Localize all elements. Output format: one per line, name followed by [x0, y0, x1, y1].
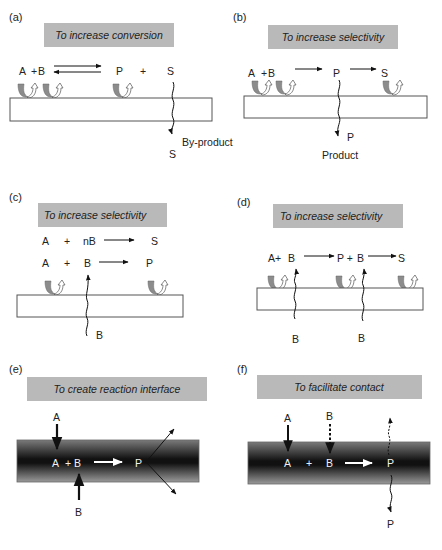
species-B: B	[74, 457, 81, 469]
panel-c-title: To increase selectivity	[44, 209, 147, 221]
species-A: A	[284, 457, 291, 469]
membrane	[17, 295, 183, 317]
feed-A-label: A	[284, 412, 291, 424]
species-S: S	[151, 235, 158, 247]
panel-f-label: (f)	[237, 363, 247, 375]
species-S: S	[167, 65, 174, 77]
panel-f: (f) To facilitate contact A B A + B P P	[237, 363, 430, 530]
adsorption-arrow-icon	[43, 83, 63, 98]
species-A: A	[42, 235, 49, 247]
species-A: A	[42, 257, 49, 269]
species-B: B	[357, 252, 364, 264]
plus: +	[261, 67, 267, 79]
plus: +	[140, 65, 146, 77]
species-S: S	[381, 67, 388, 79]
panel-a-title: To increase conversion	[55, 29, 163, 41]
plus: +	[306, 457, 312, 469]
species-P: P	[333, 67, 340, 79]
feed-B-label: B	[326, 410, 333, 422]
adsorption-arrow-icon	[18, 83, 38, 98]
panel-e-title: To create reaction interface	[54, 383, 181, 395]
product-label: Product	[322, 149, 358, 161]
panel-c-label: (c)	[9, 191, 22, 203]
species-A: A	[52, 457, 59, 469]
plus: +	[65, 457, 71, 469]
species-S-out: S	[169, 148, 176, 160]
membrane	[244, 96, 427, 118]
panel-f-title: To facilitate contact	[294, 381, 385, 393]
figure-canvas: (a) To increase conversion A + B P + S B…	[0, 0, 442, 550]
feed-A-label: A	[53, 411, 60, 423]
species-B: B	[268, 67, 275, 79]
panel-c: (c) To increase selectivity A + nB S A +…	[9, 191, 183, 341]
feed-B-label: B	[96, 329, 103, 341]
species-P: P	[135, 457, 142, 469]
species-P: P	[116, 65, 123, 77]
species-nB: nB	[83, 235, 96, 247]
panel-b-title: To increase selectivity	[282, 31, 385, 43]
panel-d-title: To increase selectivity	[280, 210, 383, 222]
species-A: A+	[268, 252, 281, 264]
byproduct-label: By-product	[182, 136, 233, 148]
species-A: A	[19, 65, 26, 77]
species-A: A	[248, 67, 255, 79]
adsorption-arrow-icon	[383, 80, 403, 95]
species-P-out: P	[347, 131, 354, 143]
species-B: B	[84, 257, 91, 269]
species-B: B	[38, 65, 45, 77]
membrane	[10, 98, 212, 121]
species-B: B	[288, 252, 295, 264]
species-P: P +	[337, 252, 353, 264]
panel-a: (a) To increase conversion A + B P + S B…	[9, 11, 233, 160]
feed-B-label: B	[358, 332, 365, 344]
adsorption-arrow-icon	[148, 280, 168, 295]
species-P: P	[146, 257, 153, 269]
panel-e-label: (e)	[9, 363, 22, 375]
species-P: P	[387, 457, 394, 469]
plus: +	[64, 257, 70, 269]
panel-a-label: (a)	[9, 11, 22, 23]
plus: +	[64, 235, 70, 247]
species-B: B	[326, 457, 333, 469]
adsorption-arrow-icon	[113, 83, 133, 98]
adsorption-arrow-icon	[45, 280, 65, 295]
membrane-reaction-layer	[248, 442, 430, 484]
panel-e: (e) To create reaction interface A A + B…	[9, 363, 207, 518]
feed-B-label: B	[75, 506, 82, 518]
adsorption-arrow-icon	[276, 80, 296, 95]
product-P-out: P	[387, 518, 394, 530]
species-S: S	[398, 252, 405, 264]
panel-d: (d) To increase selectivity A+ B P + B S…	[237, 196, 423, 345]
adsorption-arrow-icon	[252, 80, 272, 95]
membrane	[257, 288, 423, 310]
panel-b-label: (b)	[233, 11, 246, 23]
feed-B-label: B	[292, 333, 299, 345]
plus: +	[31, 65, 37, 77]
panel-d-label: (d)	[237, 196, 250, 208]
panel-b: (b) To increase selectivity A + B P S P …	[233, 11, 427, 161]
